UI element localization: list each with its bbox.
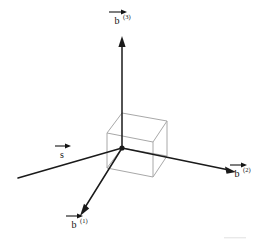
label-b1-superscript: (1) bbox=[80, 217, 88, 225]
label-b3: b (3) bbox=[109, 9, 131, 26]
origin-point bbox=[119, 145, 124, 150]
axis-b3 bbox=[118, 36, 125, 148]
figure-root: b (3) b (2) b (1) s bbox=[0, 0, 269, 244]
scan-artifact bbox=[224, 237, 246, 238]
label-s: s bbox=[55, 143, 71, 160]
label-b2-superscript: (2) bbox=[243, 166, 251, 174]
axes-diagram-canvas: b (3) b (2) b (1) s bbox=[0, 0, 269, 244]
label-b2-base: b bbox=[235, 168, 240, 179]
label-s-base: s bbox=[60, 149, 64, 160]
axis-b3-arrowhead bbox=[118, 36, 125, 47]
axis-b1-arrowhead bbox=[80, 204, 89, 216]
unit-cell-top-face bbox=[107, 113, 167, 142]
unit-cell-bottom-face bbox=[107, 148, 167, 177]
label-s-vector-arrowhead bbox=[65, 143, 71, 148]
unit-cell-parallelepiped bbox=[107, 113, 167, 177]
axis-b2 bbox=[122, 148, 236, 174]
label-b1-base: b bbox=[72, 219, 77, 230]
label-b3-superscript: (3) bbox=[123, 13, 131, 21]
label-b1: b (1) bbox=[66, 213, 88, 230]
axis-b2-line bbox=[122, 148, 229, 170]
label-b3-base: b bbox=[115, 15, 120, 26]
